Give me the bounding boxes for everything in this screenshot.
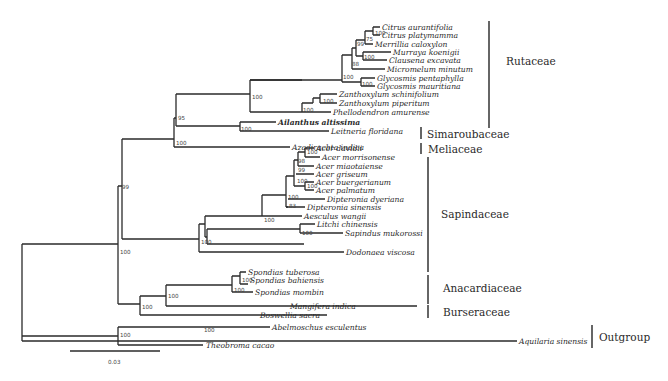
support-value: 98 [298, 158, 306, 164]
support-value: 100 [252, 94, 263, 100]
scale-bar-label: 0.03 [108, 359, 121, 365]
taxon-label: Citrus platymamma [382, 31, 458, 40]
support-value: 100 [303, 107, 314, 113]
taxon-label: Spondias bahiensis [250, 276, 324, 285]
support-value: 100 [307, 149, 318, 155]
support-value: 100 [362, 81, 373, 87]
support-value: 100 [168, 293, 179, 299]
support-value: 100 [201, 239, 212, 245]
taxon-label: Theobroma cacao [206, 341, 275, 350]
taxon-label: Spondias mombin [255, 288, 324, 297]
support-value: 100 [364, 54, 375, 60]
taxon-labels: Citrus aurantifolia Citrus platymamma Me… [206, 23, 588, 350]
support-value: 75 [366, 36, 374, 42]
taxon-label: Aquilaria sinensis [518, 337, 588, 346]
taxon-label: Zanthoxylum piperitum [338, 99, 430, 108]
support-value: 100 [176, 140, 187, 146]
taxon-label: Dodonaea viscosa [345, 248, 415, 257]
taxon-label: Sapindus mukorossi [345, 229, 423, 238]
support-value: 99 [298, 167, 306, 173]
support-value: 100 [264, 217, 275, 223]
family-label-meliaceae: Meliaceae [428, 143, 483, 155]
taxon-label: Abelmoschus esculentus [271, 323, 367, 332]
taxon-label: Mangifera indica [289, 302, 356, 311]
taxon-label: Dipteronia sinensis [306, 203, 381, 212]
taxon-label: Zanthoxylum schinifolium [338, 90, 439, 99]
support-value: 100 [302, 230, 313, 236]
support-value: 99 [122, 184, 130, 190]
taxon-label: Acer davidii [315, 144, 363, 153]
taxon-label-highlighted: Ailanthus altissima [277, 118, 360, 127]
taxon-label: Phellodendron amurense [332, 108, 430, 117]
scale-bar: 0.03 [70, 351, 160, 365]
taxon-label: Litchi chinensis [316, 220, 378, 229]
family-label-outgroup: Outgroup [599, 331, 650, 343]
support-value: 100 [204, 327, 215, 333]
support-value: 100 [242, 277, 253, 283]
support-value: 100 [375, 30, 386, 36]
support-value: 95 [178, 115, 186, 121]
support-value: 100 [142, 304, 153, 310]
taxon-label: Acer morrisonense [321, 153, 395, 162]
taxon-label: Leitneria floridana [330, 127, 403, 136]
support-value: 100 [343, 74, 354, 80]
support-value: 83 [289, 203, 297, 209]
support-value: 100 [234, 287, 245, 293]
taxon-label: Clausena excavata [389, 56, 461, 65]
taxon-label: Micromelum minutum [386, 65, 473, 74]
support-value: 100 [288, 194, 299, 200]
taxon-label: Boswellia sacra [259, 311, 321, 320]
support-value: 88 [352, 61, 360, 67]
support-value: 100 [120, 332, 131, 338]
support-value: 100 [120, 249, 131, 255]
taxon-label: Acer palmatum [315, 186, 375, 195]
phylogenetic-tree: Citrus aurantifolia Citrus platymamma Me… [0, 0, 668, 381]
support-value: 100 [241, 126, 252, 132]
family-label-burseraceae: Burseraceae [443, 306, 510, 318]
family-label-rutaceae: Rutaceae [506, 55, 556, 67]
family-label-simaroubaceae: Simaroubaceae [427, 128, 509, 140]
family-label-sapindaceae: Sapindaceae [441, 208, 509, 220]
support-value: 100 [307, 183, 318, 189]
family-label-anacardiaceae: Anacardiaceae [442, 282, 522, 294]
support-value: 99 [357, 41, 365, 47]
support-value: 100 [323, 98, 334, 104]
